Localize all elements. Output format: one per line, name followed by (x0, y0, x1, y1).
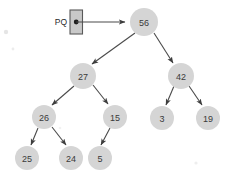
background-specks (4, 30, 198, 165)
tree-node: 5 (88, 146, 112, 170)
node-label-3: 3 (159, 114, 164, 124)
edge-27-15 (93, 85, 108, 104)
edge-56-42 (154, 33, 173, 63)
node-label-19: 19 (203, 114, 213, 124)
tree-node: 56 (130, 8, 158, 36)
tree-nodes: 56 27 42 26 15 3 (15, 8, 220, 170)
node-label-27: 27 (78, 72, 88, 82)
node-label-42: 42 (176, 72, 186, 82)
tree-node: 19 (196, 106, 220, 130)
node-label-15: 15 (110, 113, 120, 123)
tree-node: 42 (168, 63, 194, 89)
tree-node: 27 (70, 63, 96, 89)
node-label-24: 24 (66, 154, 76, 164)
tree-node: 3 (150, 106, 174, 130)
tree-node: 25 (15, 146, 39, 170)
tree-node: 24 (59, 146, 83, 170)
edge-56-27 (92, 33, 135, 64)
edge-15-5 (101, 128, 110, 145)
tree-canvas: PQ 56 27 42 26 (0, 0, 231, 181)
edge-27-26 (52, 86, 74, 105)
edge-42-19 (189, 86, 202, 105)
edge-42-3 (166, 86, 174, 105)
tree-node: 15 (103, 105, 127, 129)
edge-26-24 (52, 127, 66, 145)
edge-26-25 (31, 128, 38, 145)
node-label-25: 25 (22, 154, 32, 164)
tree-node: 26 (32, 105, 56, 129)
pq-label: PQ (55, 17, 68, 27)
node-label-56: 56 (139, 18, 149, 28)
binary-tree-diagram: PQ 56 27 42 26 (0, 0, 231, 181)
pq-pointer-group: PQ (55, 10, 125, 34)
node-label-26: 26 (39, 113, 49, 123)
node-label-5: 5 (97, 154, 102, 164)
